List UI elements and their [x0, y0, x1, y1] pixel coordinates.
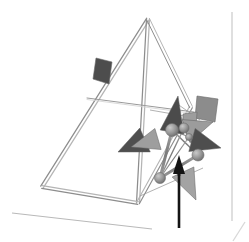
truss-edge-apex-rear-rail-1 [149, 18, 192, 106]
node-sphere-n4 [155, 173, 166, 184]
truss-edge-base-rail-1 [42, 186, 138, 202]
ground-reference-line [12, 213, 152, 229]
reference-force-arrow [173, 155, 185, 228]
truss-edge-base [42, 186, 138, 205]
viewport-border [232, 12, 245, 241]
truss-edge-apex-rear-rail-0 [147, 20, 190, 108]
truss-edge-base-rail-0 [42, 188, 138, 204]
truss-edge-left [41, 18, 150, 188]
node-sphere-n1 [166, 124, 179, 137]
plate-right-large-gray [195, 96, 218, 122]
quad-plates [93, 58, 218, 128]
viewport-corner-diagonal [233, 222, 245, 241]
node-sphere-n5 [186, 134, 193, 141]
plate-upper-left-dark [93, 58, 112, 84]
truss-edge-apex-rear [147, 18, 193, 107]
node-sphere-n2 [179, 123, 189, 133]
truss-edge-left-rail-0 [41, 18, 147, 186]
scene-canvas [0, 0, 249, 242]
render-viewport [0, 0, 249, 242]
truss-edge-right [137, 19, 150, 203]
node-sphere-n3 [192, 149, 204, 161]
